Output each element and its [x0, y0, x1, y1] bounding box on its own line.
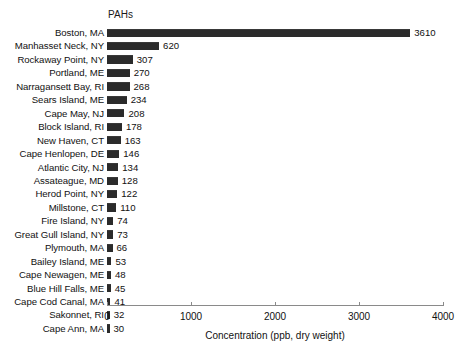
bar-value-label: 163	[125, 134, 141, 147]
bar-value-label: 268	[134, 80, 150, 93]
bar-row: Atlantic City, NJ134	[107, 161, 443, 174]
bar	[107, 69, 130, 77]
bar-value-label: 3610	[414, 26, 435, 39]
x-axis-tick	[359, 302, 360, 306]
bar	[107, 29, 410, 37]
bar-value-label: 128	[122, 174, 138, 187]
bar	[107, 150, 119, 158]
bar	[107, 203, 116, 211]
bar-row: Cape Newagen, ME48	[107, 268, 443, 281]
bar-category-label: Sears Island, ME	[32, 93, 104, 106]
bar-category-label: Cape Henlopen, DE	[20, 147, 104, 160]
x-axis-tick-label: 0	[104, 311, 110, 322]
x-axis-tick	[191, 302, 192, 306]
bar-value-label: 178	[126, 120, 142, 133]
bar-value-label: 110	[120, 201, 135, 214]
bar-row: Blue Hill Falls, ME45	[107, 282, 443, 295]
bar-value-label: 66	[117, 241, 128, 254]
bar	[107, 257, 111, 265]
bar-value-label: 134	[122, 161, 138, 174]
bar-category-label: Cape May, NJ	[45, 107, 104, 120]
bar-value-label: 146	[123, 147, 139, 160]
bar	[107, 123, 122, 131]
bar-category-label: Cape Cod Canal, MA	[14, 295, 104, 308]
bar	[107, 244, 113, 252]
x-axis-tick-label: 3000	[348, 311, 370, 322]
bar-category-label: Plymouth, MA	[45, 241, 104, 254]
bar-category-label: Cape Ann, MA	[43, 322, 104, 335]
x-axis-tick	[275, 302, 276, 306]
bar-row: Block Island, RI178	[107, 120, 443, 133]
bar	[107, 136, 121, 144]
bar-value-label: 53	[115, 255, 126, 268]
bar-row: Assateague, MD128	[107, 174, 443, 187]
bar-value-label: 32	[114, 308, 125, 321]
bar-row: Cape May, NJ208	[107, 107, 443, 120]
bar-category-label: Boston, MA	[55, 26, 104, 39]
bar	[107, 96, 127, 104]
bar	[107, 217, 113, 225]
bar	[107, 109, 124, 117]
bar-value-label: 270	[134, 66, 150, 79]
bar-category-label: Portland, ME	[49, 66, 104, 79]
bar-category-label: Sakonnet, RI	[49, 308, 104, 321]
bar-chart-figure: PAHs Boston, MA3610Manhasset Neck, NY620…	[0, 0, 473, 352]
bar-row: Boston, MA3610	[107, 26, 443, 39]
plot-area: Boston, MA3610Manhasset Neck, NY620Rocka…	[107, 26, 443, 305]
bar-row: Portland, ME270	[107, 66, 443, 79]
bar-category-label: New Haven, CT	[37, 134, 104, 147]
bar-category-label: Rockaway Point, NY	[17, 53, 104, 66]
bar-row: Bailey Island, ME53	[107, 255, 443, 268]
bar-value-label: 48	[115, 268, 126, 281]
bar-value-label: 45	[115, 282, 126, 295]
bar-category-label: Atlantic City, NJ	[38, 161, 104, 174]
bar-value-label: 620	[163, 39, 179, 52]
bar-row: New Haven, CT163	[107, 134, 443, 147]
bar	[107, 230, 113, 238]
x-axis-tick-label: 1000	[180, 311, 202, 322]
bar-category-label: Manhasset Neck, NY	[15, 39, 104, 52]
x-axis-tick	[107, 302, 108, 306]
x-axis-tick-label: 4000	[432, 311, 454, 322]
bar-category-label: Cape Newagen, ME	[19, 268, 104, 281]
bar-value-label: 74	[117, 214, 128, 227]
bar-row: Plymouth, MA66	[107, 241, 443, 254]
bar-value-label: 122	[121, 187, 137, 200]
bar-category-label: Great Gull Island, NY	[14, 228, 104, 241]
bar-row: Herod Point, NY122	[107, 187, 443, 200]
bar	[107, 190, 117, 198]
bar-row: Narragansett Bay, RI268	[107, 80, 443, 93]
bar-row: Great Gull Island, NY73	[107, 228, 443, 241]
bar	[107, 163, 118, 171]
bar-value-label: 41	[114, 295, 125, 308]
bar	[107, 55, 133, 63]
bar-category-label: Assateague, MD	[34, 174, 104, 187]
bar-category-label: Millstone, CT	[49, 201, 104, 214]
x-axis-line: 01000200030004000	[107, 305, 443, 306]
bar-category-label: Blue Hill Falls, ME	[27, 282, 104, 295]
bar-row: Rockaway Point, NY307	[107, 53, 443, 66]
bar	[107, 42, 159, 50]
bar-value-label: 307	[137, 53, 153, 66]
x-axis-title: Concentration (ppb, dry weight)	[107, 330, 443, 341]
bar-category-label: Narragansett Bay, RI	[16, 80, 104, 93]
x-axis-tick	[443, 302, 444, 306]
bar-row: Fire Island, NY74	[107, 214, 443, 227]
bar-value-label: 73	[117, 228, 128, 241]
bar-value-label: 208	[128, 107, 144, 120]
bar-category-label: Bailey Island, ME	[31, 255, 104, 268]
bar-row: Sears Island, ME234	[107, 93, 443, 106]
x-axis-tick-label: 2000	[264, 311, 286, 322]
chart-title: PAHs	[108, 9, 133, 20]
bar-row: Cape Henlopen, DE146	[107, 147, 443, 160]
bar	[107, 177, 118, 185]
bar	[107, 82, 130, 90]
bar-row: Millstone, CT110	[107, 201, 443, 214]
bar	[107, 284, 111, 292]
bar-row: Manhasset Neck, NY620	[107, 39, 443, 52]
bar	[107, 271, 111, 279]
bar-category-label: Herod Point, NY	[35, 187, 104, 200]
bar-value-label: 234	[131, 93, 147, 106]
bar-category-label: Fire Island, NY	[41, 214, 104, 227]
bar-category-label: Block Island, RI	[38, 120, 104, 133]
